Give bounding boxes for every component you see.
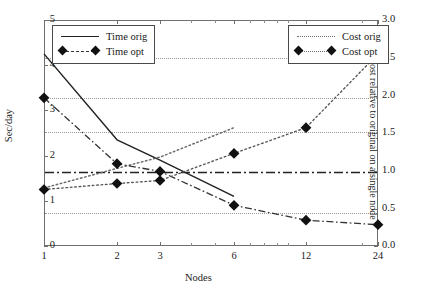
y-axis-label-left: Sec/day (3, 109, 14, 142)
marker-time-opt-24 (373, 219, 384, 230)
legend-left: Time orig Time opt (52, 25, 155, 64)
marker-cost-opt-1 (39, 184, 50, 195)
legend-label-time-opt: Time opt (106, 46, 144, 57)
marker-cost-opt-2 (112, 178, 123, 189)
legend-entry-time-opt: Time opt (59, 44, 147, 59)
legend-entry-time-orig: Time orig (59, 29, 147, 44)
marker-time-opt-6 (229, 200, 240, 211)
series-time-opt-line (44, 98, 378, 225)
legend-label-cost-orig: Cost orig (342, 31, 381, 42)
series-time-opt-markers (39, 92, 384, 230)
y-axis-label-right: Cost relative to original on a single no… (368, 57, 379, 219)
legend-key-dashdot-diamond-icon (59, 46, 101, 58)
legend-entry-cost-orig: Cost orig (295, 29, 381, 44)
legend-key-dotted-diamond-icon (295, 46, 337, 58)
legend-label-time-orig: Time orig (106, 31, 147, 42)
legend-key-solid-line-icon (59, 31, 101, 43)
legend-label-cost-opt: Cost opt (342, 46, 377, 57)
legend-entry-cost-opt: Cost opt (295, 44, 381, 59)
legend-right: Cost orig Cost opt (288, 25, 389, 64)
x-axis-label: Nodes (185, 272, 212, 283)
series-cost-orig-line (44, 128, 234, 188)
marker-cost-opt-6 (229, 148, 240, 159)
marker-cost-opt-3 (155, 175, 166, 186)
series-time-orig-line (44, 54, 234, 196)
chart-figure: 5 4 3 2 1 0 3.0 2.5 2.0 1.5 1.0 0.5 0.0 … (0, 0, 434, 293)
series-cost-opt-markers (39, 49, 384, 195)
marker-time-opt-12 (301, 215, 312, 226)
series-cost-opt-line (44, 54, 378, 190)
legend-key-dotted-line-icon (295, 31, 337, 43)
